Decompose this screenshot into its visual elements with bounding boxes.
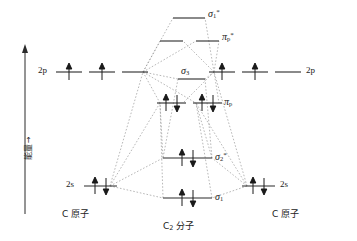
left-atom-caption: C 原子 bbox=[62, 210, 89, 219]
right-atom-caption: C 原子 bbox=[272, 210, 299, 219]
pi-p-anti-star: * bbox=[230, 31, 234, 39]
right-2s-label: 2s bbox=[280, 180, 288, 189]
left-2p-label: 2p bbox=[38, 66, 47, 75]
sigma1-antibonding-label: σ1* bbox=[208, 9, 220, 20]
diagram-canvas bbox=[0, 0, 357, 241]
pi-p-sub: p bbox=[229, 100, 232, 107]
pi-p-bonding-label: πp bbox=[224, 97, 232, 108]
sigma2-anti-star: * bbox=[223, 151, 227, 159]
energy-axis-label: 能量→ bbox=[22, 136, 33, 160]
energy-axis bbox=[22, 44, 28, 214]
pi-p-antibonding-label: πp* bbox=[222, 32, 234, 43]
sigma1-bonding-label: σ1 bbox=[215, 192, 223, 203]
sigma1-sub: 1 bbox=[220, 195, 223, 202]
sigma3-sub: 3 bbox=[186, 69, 189, 76]
sigma2-antibonding-label: σ2* bbox=[215, 152, 227, 163]
mo-energy-diagram: 能量→ 2p 2p 2s 2s σ1* πp* σ3 πp σ2* σ1 C 原… bbox=[0, 0, 357, 241]
molecule-caption: C2 分子 bbox=[163, 222, 194, 232]
sigma1-anti-star: * bbox=[216, 8, 220, 16]
molecule-word: 分子 bbox=[173, 221, 194, 231]
right-2p-label: 2p bbox=[306, 66, 315, 75]
left-2s-label: 2s bbox=[66, 180, 74, 189]
sigma3-label: σ3 bbox=[181, 66, 189, 77]
